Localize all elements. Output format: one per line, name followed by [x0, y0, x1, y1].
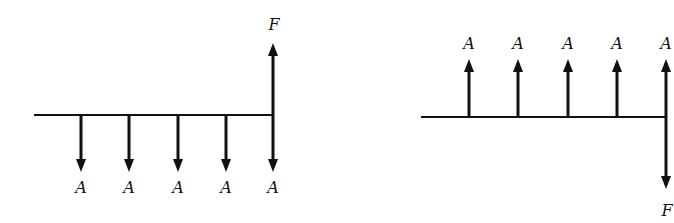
- arrowhead-icon: [612, 59, 622, 72]
- arrowhead-icon: [173, 159, 183, 172]
- payment-arrow: [268, 115, 278, 172]
- future-value-label: F: [660, 201, 673, 220]
- arrowhead-icon: [76, 159, 86, 172]
- payment-label: A: [461, 34, 475, 53]
- payment-label: A: [121, 178, 135, 197]
- arrowhead-icon: [563, 59, 573, 72]
- payment-arrow: [661, 59, 671, 117]
- payment-arrow: [513, 59, 523, 117]
- payment-label: A: [73, 178, 87, 197]
- arrowhead-icon: [268, 43, 278, 56]
- payment-arrow: [612, 59, 622, 117]
- arrowhead-icon: [513, 59, 523, 72]
- payment-label: A: [218, 178, 232, 197]
- payment-arrow: [124, 115, 134, 172]
- payment-label: A: [170, 178, 184, 197]
- left-cash-flow: AAAAAF: [34, 15, 280, 197]
- arrowhead-icon: [124, 159, 134, 172]
- payment-arrow: [76, 115, 86, 172]
- payment-label: A: [609, 34, 623, 53]
- arrowhead-icon: [268, 159, 278, 172]
- payment-arrow: [221, 115, 231, 172]
- payment-label: A: [560, 34, 574, 53]
- payment-arrow: [563, 59, 573, 117]
- payment-label: A: [510, 34, 524, 53]
- payment-arrow: [173, 115, 183, 172]
- future-value-arrow: [661, 117, 671, 189]
- payment-label: A: [658, 34, 672, 53]
- payment-arrow: [464, 59, 474, 117]
- payment-label: A: [265, 178, 279, 197]
- future-value-label: F: [267, 15, 280, 34]
- arrowhead-icon: [464, 59, 474, 72]
- right-cash-flow: AAAAAF: [421, 34, 673, 220]
- arrowhead-icon: [661, 176, 671, 189]
- arrowhead-icon: [221, 159, 231, 172]
- cash-flow-diagrams: AAAAAFAAAAAF: [0, 0, 674, 223]
- arrowhead-icon: [661, 59, 671, 72]
- future-value-arrow: [268, 43, 278, 115]
